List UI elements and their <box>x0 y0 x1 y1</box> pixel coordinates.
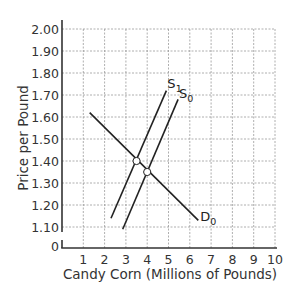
y-axis-title: Price per Pound <box>15 85 31 191</box>
y-tick-label: 0 <box>51 239 59 254</box>
x-tick-label: 7 <box>207 252 215 267</box>
equilibrium-point-marker <box>133 157 140 164</box>
x-tick-label: 4 <box>143 252 151 267</box>
x-axis-title: Candy Corn (Millions of Pounds) <box>63 266 277 282</box>
curve-s0 <box>123 99 178 229</box>
y-tick-label: 1.70 <box>31 88 59 103</box>
curves <box>90 91 199 230</box>
y-tick-label: 1.40 <box>31 154 59 169</box>
x-tick-label: 6 <box>186 252 194 267</box>
y-tick-label: 1.90 <box>31 44 59 59</box>
gridlines <box>62 29 275 248</box>
x-tick-label: 9 <box>250 252 258 267</box>
y-tick-label: 1.10 <box>31 220 59 235</box>
x-tick-label: 5 <box>165 252 173 267</box>
y-tick-label: 2.00 <box>31 22 59 37</box>
curve-s1 <box>111 91 166 219</box>
x-tick-label: 2 <box>101 252 109 267</box>
y-tick-label: 1.60 <box>31 110 59 125</box>
curve-d0 <box>90 113 199 221</box>
y-axis-ticks: 01.101.201.301.401.501.601.701.801.902.0… <box>31 22 59 254</box>
x-axis-ticks: 12345678910 <box>79 252 283 267</box>
label-d0: D0 <box>200 209 216 227</box>
axes <box>61 20 277 248</box>
equilibrium-point-marker <box>144 168 151 175</box>
x-tick-label: 8 <box>228 252 236 267</box>
y-tick-label: 1.50 <box>31 132 59 147</box>
x-tick-label: 1 <box>79 252 87 267</box>
x-tick-label: 3 <box>122 252 130 267</box>
equilibrium-points <box>133 157 151 175</box>
y-tick-label: 1.80 <box>31 66 59 81</box>
supply-demand-chart: 01.101.201.301.401.501.601.701.801.902.0… <box>0 0 296 293</box>
label-s0: S0 <box>179 86 193 104</box>
x-tick-label: 10 <box>267 252 283 267</box>
y-tick-label: 1.30 <box>31 176 59 191</box>
y-tick-label: 1.20 <box>31 198 59 213</box>
